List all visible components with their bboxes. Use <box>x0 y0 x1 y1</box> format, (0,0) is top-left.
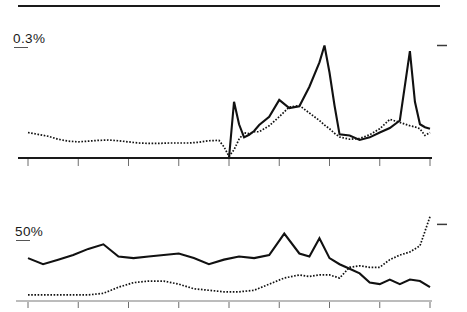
top-level-label: 0.3% <box>13 31 45 48</box>
bottom-level-label-text: 50% <box>15 224 43 239</box>
top-solid-series-line <box>224 46 430 159</box>
top-chart-svg: 19051925194519651985 <box>0 14 467 166</box>
bottom-level-label-underline <box>16 240 30 241</box>
chart-panel-bottom <box>0 196 467 312</box>
bottom-level-label: 50% <box>15 224 43 241</box>
chart-panel-top: 19051925194519651985 <box>0 14 467 166</box>
figure-root: 19051925194519651985 0.3% 50% <box>0 0 467 312</box>
top-level-label-underline <box>14 47 28 48</box>
bottom-chart-svg <box>0 196 467 312</box>
top-horizontal-rule <box>18 5 440 7</box>
top-level-label-text: 0.3% <box>13 31 45 46</box>
bottom-solid-series-line <box>28 234 430 288</box>
